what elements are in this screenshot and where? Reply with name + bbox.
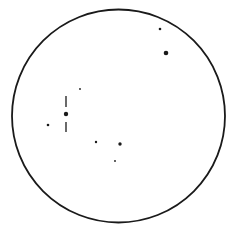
star xyxy=(159,28,162,31)
target-marker xyxy=(64,96,68,132)
stars xyxy=(47,28,169,162)
star xyxy=(164,51,169,56)
target-star xyxy=(64,112,68,116)
field-of-view-circle xyxy=(12,10,225,223)
star-field xyxy=(0,0,233,238)
finder-chart xyxy=(0,0,233,238)
star xyxy=(118,142,121,145)
star xyxy=(79,88,81,90)
star xyxy=(47,124,50,127)
star xyxy=(114,160,116,162)
star xyxy=(95,141,97,143)
